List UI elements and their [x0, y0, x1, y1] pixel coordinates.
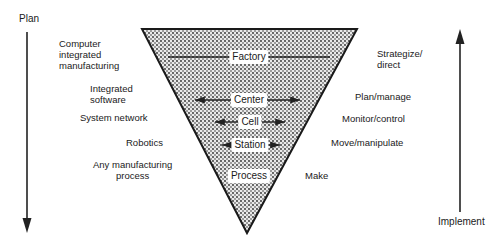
implement-label: Implement — [438, 216, 485, 227]
left-label-any-process: Any manufacturing process — [93, 159, 172, 181]
implement-arrowhead-icon — [456, 29, 465, 44]
plan-label: Plan — [19, 13, 39, 24]
right-label-move-manipulate: Move/manipulate — [331, 137, 403, 148]
right-label-make: Make — [305, 170, 328, 181]
left-label-system-network: System network — [80, 112, 148, 123]
level-cell: Cell — [238, 115, 261, 129]
left-label-integrated-software: Integrated software — [90, 83, 133, 105]
plan-arrowhead-icon — [23, 218, 32, 233]
left-label-cim: Computer integrated manufacturing — [59, 38, 119, 71]
right-label-plan-manage: Plan/manage — [355, 91, 411, 102]
level-factory: Factory — [229, 50, 268, 64]
level-process: Process — [228, 169, 270, 183]
right-label-strategize: Strategize/ direct — [377, 48, 422, 70]
left-label-robotics: Robotics — [126, 137, 163, 148]
level-station: Station — [231, 138, 268, 152]
right-label-monitor-control: Monitor/control — [342, 113, 405, 124]
level-center: Center — [231, 93, 267, 107]
